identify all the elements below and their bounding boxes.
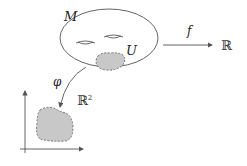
f-label: f xyxy=(186,24,194,38)
manifold-label: M xyxy=(63,9,78,24)
open-set-label: U xyxy=(126,43,138,58)
torus-hole-left xyxy=(76,41,95,44)
reals-label: ℝ xyxy=(221,38,233,53)
open-set-U-region xyxy=(96,53,125,70)
chart-image-region xyxy=(36,107,73,141)
phi-label: φ xyxy=(53,75,62,89)
torus-hole-right xyxy=(104,35,123,38)
plane-label: ℝ2 xyxy=(77,93,92,108)
diagram-canvas: M U f ℝ φ ℝ2 xyxy=(0,0,247,166)
